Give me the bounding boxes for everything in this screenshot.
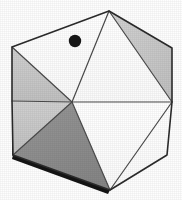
dot-marker xyxy=(69,35,81,47)
polyhedron-figure xyxy=(0,0,182,200)
figure-canvas xyxy=(0,0,182,200)
